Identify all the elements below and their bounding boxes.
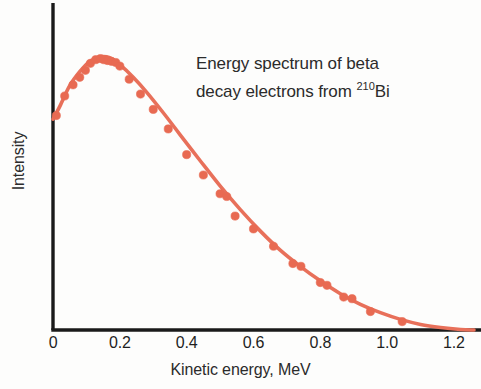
y-axis-title: Intensity [10,116,28,206]
data-point [231,212,239,220]
data-point [61,92,69,100]
data-point [149,105,157,113]
x-tick-label: 0.8 [300,334,340,352]
data-point [223,192,231,200]
data-point [136,90,144,98]
data-point [183,151,191,159]
annotation-line-2-prefix: decay electrons from [196,82,356,101]
data-point [366,307,374,315]
x-tick-label: 0.4 [167,334,207,352]
chart-annotation: Energy spectrum of beta decay electrons … [196,52,476,103]
data-point [323,281,331,289]
data-point [81,66,89,74]
mass-number-superscript: 210 [356,80,374,92]
x-tick-label: 0.6 [233,334,273,352]
data-point [249,225,257,233]
data-point [297,262,305,270]
annotation-line-1: Energy spectrum of beta [196,54,379,73]
data-point [289,259,297,267]
data-point [116,62,124,70]
data-point [398,318,406,326]
element-symbol: Bi [375,82,390,101]
data-point [269,242,277,250]
data-point [340,293,348,301]
annotation-line-2: decay electrons from 210Bi [196,75,476,103]
data-point [69,81,77,89]
data-point [76,73,84,81]
x-tick-label: 0 [33,334,73,352]
x-tick-label: 0.2 [100,334,140,352]
beta-spectrum-figure: Energy spectrum of beta decay electrons … [0,0,481,389]
data-point [199,171,207,179]
x-tick-label: 1.0 [367,334,407,352]
x-axis-title: Kinetic energy, MeV [0,361,481,379]
data-point [164,125,172,133]
data-point [125,75,133,83]
data-point [52,111,60,119]
x-tick-label: 1.2 [434,334,474,352]
data-point [348,295,356,303]
